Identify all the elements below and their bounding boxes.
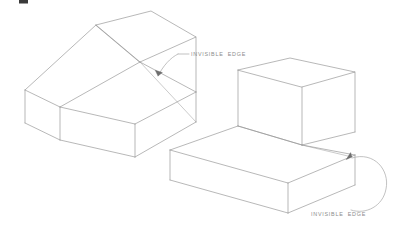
wedge-callout-arrowhead xyxy=(155,70,162,76)
step-invisible-edge-label: INVISIBLE EDGE xyxy=(311,211,366,217)
wedge-front-right-face-fill xyxy=(60,107,135,157)
wedge-invisible-edge-label: INVISIBLE EDGE xyxy=(191,51,246,57)
wedge-lower-slope-edge xyxy=(135,92,196,124)
wedge-chamfer-right-edge xyxy=(140,62,196,92)
wedge-invisible-edge xyxy=(140,62,196,122)
figure-right-step-block: INVISIBLE EDGE xyxy=(170,58,387,217)
cropped-glyph-fragment xyxy=(19,0,28,4)
technical-drawing-canvas: INVISIBLE EDGE INVISIBL xyxy=(0,0,402,247)
step-callout-leader xyxy=(351,157,387,212)
